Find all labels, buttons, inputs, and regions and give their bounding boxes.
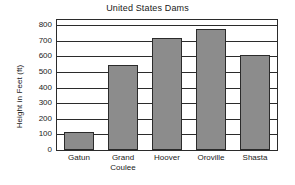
y-tick-label-600: 600 <box>26 52 52 60</box>
y-axis-ticks: 0100200300400500600700800 <box>25 25 52 150</box>
y-tick-label-800: 800 <box>26 21 52 29</box>
x-tick-label-hoover: Hoover <box>145 153 189 163</box>
x-tick-label-line1: Shasta <box>243 153 268 162</box>
bar-oroville[interactable] <box>196 29 227 150</box>
plot-area <box>57 25 277 150</box>
y-tick-label-500: 500 <box>26 68 52 76</box>
gridline-800 <box>57 25 277 26</box>
x-tick-label-line1: Grand <box>112 153 134 162</box>
bar-shasta[interactable] <box>240 55 271 150</box>
x-tick-label-line2: Coulee <box>101 163 145 173</box>
y-tick-label-100: 100 <box>26 130 52 138</box>
bar-hoover[interactable] <box>152 38 183 151</box>
y-tick-label-400: 400 <box>26 84 52 92</box>
y-tick-label-200: 200 <box>26 115 52 123</box>
x-tick-label-line1: Gatun <box>68 153 90 162</box>
y-tick-label-700: 700 <box>26 37 52 45</box>
y-axis-title: Height in Feet (ft) <box>15 47 24 147</box>
x-tick-label-grand-coulee: GrandCoulee <box>101 153 145 173</box>
y-tick-label-300: 300 <box>26 99 52 107</box>
x-tick-label-line1: Oroville <box>197 153 224 162</box>
bar-gatun[interactable] <box>64 132 95 150</box>
x-axis-labels: GatunGrandCouleeHooverOrovilleShasta <box>57 153 277 183</box>
x-tick-label-oroville: Oroville <box>189 153 233 163</box>
chart-title: United States Dams <box>0 3 295 13</box>
bar-grand-coulee[interactable] <box>108 65 139 150</box>
x-tick-label-gatun: Gatun <box>57 153 101 163</box>
x-tick-label-line1: Hoover <box>154 153 180 162</box>
bar-chart-figure: United States Dams Height in Feet (ft) 0… <box>0 0 295 185</box>
x-tick-label-shasta: Shasta <box>233 153 277 163</box>
gridline-0 <box>57 150 277 151</box>
y-tick-label-0: 0 <box>26 146 52 154</box>
